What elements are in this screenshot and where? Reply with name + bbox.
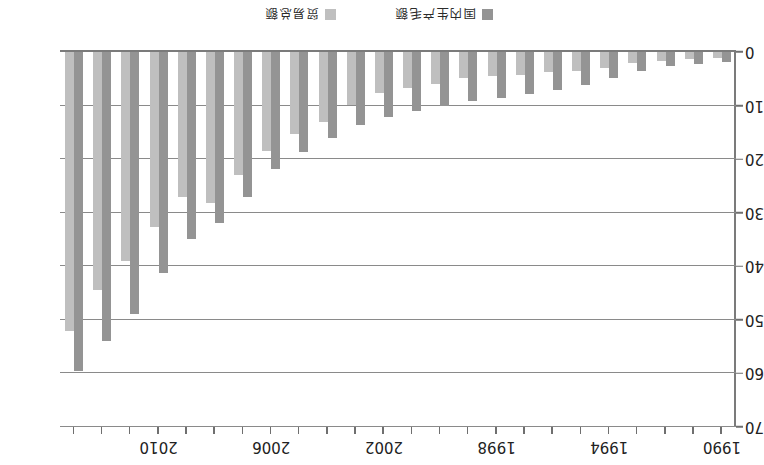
y-tick-label: 40 bbox=[745, 257, 764, 275]
x-tick-mark bbox=[467, 427, 469, 434]
bar[interactable] bbox=[187, 52, 196, 239]
bar-group[interactable] bbox=[567, 52, 595, 427]
x-tick-mark bbox=[439, 427, 441, 434]
legend-item[interactable]: 贸易总额 bbox=[265, 6, 337, 25]
bar[interactable] bbox=[657, 52, 666, 61]
y-tick-label: 70 bbox=[745, 418, 764, 436]
bar[interactable] bbox=[572, 52, 581, 71]
bar[interactable] bbox=[412, 52, 421, 111]
x-tick-mark bbox=[608, 427, 610, 434]
bar[interactable] bbox=[121, 52, 130, 261]
bar[interactable] bbox=[713, 52, 722, 58]
x-tick-label: 2006 bbox=[252, 438, 290, 456]
bar[interactable] bbox=[694, 52, 703, 64]
bar[interactable] bbox=[685, 52, 694, 60]
y-tick-mark bbox=[736, 266, 743, 268]
bar[interactable] bbox=[384, 52, 393, 117]
bar[interactable] bbox=[215, 52, 224, 223]
bar[interactable] bbox=[609, 52, 618, 78]
bar-group[interactable] bbox=[145, 52, 173, 427]
bar-group[interactable] bbox=[285, 52, 313, 427]
y-tick-mark bbox=[736, 105, 743, 107]
bar[interactable] bbox=[488, 52, 497, 76]
bar-group[interactable] bbox=[398, 52, 426, 427]
x-tick-mark bbox=[523, 427, 525, 434]
legend-swatch-icon bbox=[483, 10, 494, 21]
bar[interactable] bbox=[375, 52, 384, 93]
bar[interactable] bbox=[243, 52, 252, 197]
bar-group[interactable] bbox=[201, 52, 229, 427]
bar-group[interactable] bbox=[116, 52, 144, 427]
bar-group[interactable] bbox=[342, 52, 370, 427]
bar-group[interactable] bbox=[60, 52, 88, 427]
bar-group[interactable] bbox=[173, 52, 201, 427]
bar[interactable] bbox=[356, 52, 365, 125]
x-tick-mark bbox=[213, 427, 215, 434]
bar-group[interactable] bbox=[623, 52, 651, 427]
bar[interactable] bbox=[637, 52, 646, 71]
bar[interactable] bbox=[102, 52, 111, 341]
bar[interactable] bbox=[299, 52, 308, 152]
bar-group[interactable] bbox=[229, 52, 257, 427]
bar[interactable] bbox=[553, 52, 562, 90]
x-tick-mark bbox=[692, 427, 694, 434]
bar[interactable] bbox=[290, 52, 299, 135]
x-tick-mark bbox=[720, 427, 722, 434]
bar[interactable] bbox=[93, 52, 102, 290]
x-tick-mark bbox=[580, 427, 582, 434]
bar[interactable] bbox=[262, 52, 271, 151]
bar[interactable] bbox=[497, 52, 506, 98]
bar[interactable] bbox=[234, 52, 243, 175]
bar[interactable] bbox=[319, 52, 328, 122]
legend-label: 国内生产毛额 bbox=[395, 6, 476, 25]
bar-group[interactable] bbox=[454, 52, 482, 427]
y-tick-label: 50 bbox=[745, 311, 764, 329]
bar[interactable] bbox=[544, 52, 553, 72]
legend-swatch-icon bbox=[326, 10, 337, 21]
x-tick-mark bbox=[636, 427, 638, 434]
bar[interactable] bbox=[440, 52, 449, 106]
y-tick-mark bbox=[736, 158, 743, 160]
x-tick-mark bbox=[270, 427, 272, 434]
bar-group[interactable] bbox=[680, 52, 708, 427]
bar-group[interactable] bbox=[483, 52, 511, 427]
bar[interactable] bbox=[468, 52, 477, 101]
bar[interactable] bbox=[459, 52, 468, 78]
legend-label: 贸易总额 bbox=[265, 6, 319, 25]
bar[interactable] bbox=[271, 52, 280, 169]
y-tick-label: 20 bbox=[745, 150, 764, 168]
bar-group[interactable] bbox=[257, 52, 285, 427]
bar-group[interactable] bbox=[539, 52, 567, 427]
bar-group[interactable] bbox=[314, 52, 342, 427]
bar-group[interactable] bbox=[595, 52, 623, 427]
bar[interactable] bbox=[328, 52, 337, 138]
bar[interactable] bbox=[130, 52, 139, 314]
bar[interactable] bbox=[666, 52, 675, 66]
bar-group[interactable] bbox=[708, 52, 736, 427]
bar-group[interactable] bbox=[88, 52, 116, 427]
bar[interactable] bbox=[65, 52, 74, 331]
bar[interactable] bbox=[206, 52, 215, 203]
bar[interactable] bbox=[722, 52, 731, 62]
bar[interactable] bbox=[600, 52, 609, 68]
legend-item[interactable]: 国内生产毛额 bbox=[395, 6, 494, 25]
bar[interactable] bbox=[178, 52, 187, 197]
bar-group[interactable] bbox=[652, 52, 680, 427]
bar[interactable] bbox=[516, 52, 525, 75]
bar-group[interactable] bbox=[426, 52, 454, 427]
bar[interactable] bbox=[403, 52, 412, 88]
bar[interactable] bbox=[628, 52, 637, 63]
bar[interactable] bbox=[581, 52, 590, 85]
bar[interactable] bbox=[347, 52, 356, 105]
x-tick-mark bbox=[185, 427, 187, 434]
bar[interactable] bbox=[525, 52, 534, 94]
bar-group[interactable] bbox=[370, 52, 398, 427]
bar[interactable] bbox=[74, 52, 83, 371]
bar[interactable] bbox=[431, 52, 440, 84]
bar[interactable] bbox=[150, 52, 159, 227]
bar-group[interactable] bbox=[511, 52, 539, 427]
x-tick-mark bbox=[326, 427, 328, 434]
bar[interactable] bbox=[159, 52, 168, 273]
x-tick-mark bbox=[73, 427, 75, 434]
